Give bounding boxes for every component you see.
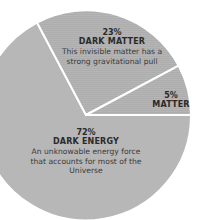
dark-energy-percent: 72% bbox=[26, 128, 146, 137]
dark-energy-label: 72% DARK ENERGY An unknowable energy for… bbox=[26, 128, 146, 176]
dark-matter-name: DARK MATTER bbox=[54, 37, 170, 47]
matter-name: MATTER bbox=[146, 100, 196, 110]
matter-label: 5% MATTER bbox=[146, 91, 196, 110]
dark-matter-percent: 23% bbox=[54, 28, 170, 37]
dark-energy-description: An unknowable energy force that accounts… bbox=[26, 147, 146, 176]
dark-matter-description: This invisible matter has a strong gravi… bbox=[54, 47, 170, 66]
dark-matter-label: 23% DARK MATTER This invisible matter ha… bbox=[54, 28, 170, 66]
dark-energy-name: DARK ENERGY bbox=[26, 137, 146, 147]
matter-percent: 5% bbox=[146, 91, 196, 100]
